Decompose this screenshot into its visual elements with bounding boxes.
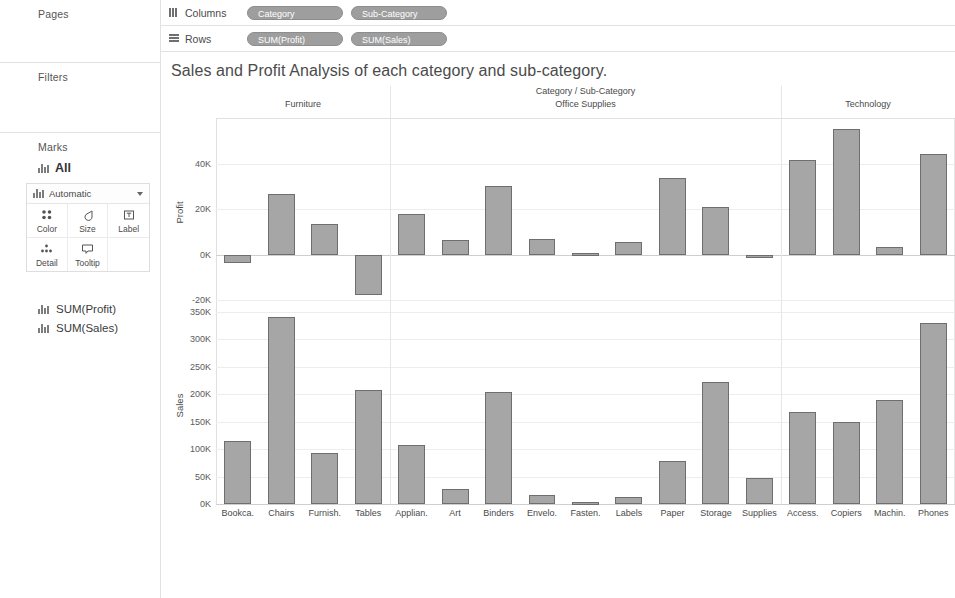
- x-axis-label: Paper: [651, 508, 694, 518]
- bar[interactable]: [224, 441, 251, 504]
- marks-size-button[interactable]: Size: [68, 204, 109, 238]
- mark-type-dropdown[interactable]: Automatic: [27, 184, 149, 204]
- worksheet: Sales and Profit Analysis of each catego…: [161, 52, 955, 598]
- measure-card-sales[interactable]: SUM(Sales): [8, 315, 160, 334]
- gridline: [216, 300, 955, 301]
- bar[interactable]: [615, 242, 642, 254]
- bar[interactable]: [529, 239, 556, 255]
- x-axis-label: Storage: [694, 508, 737, 518]
- bar[interactable]: [398, 214, 425, 255]
- bar[interactable]: [920, 323, 947, 504]
- category-label-technology: Technology: [808, 99, 928, 109]
- x-axis-label: Tables: [346, 508, 389, 518]
- gridline: [216, 367, 955, 368]
- bar[interactable]: [442, 240, 469, 255]
- bar[interactable]: [702, 207, 729, 255]
- sales-chart: Sales0K50K100K150K200K250K300K350KBookca…: [216, 309, 955, 504]
- bar[interactable]: [833, 422, 860, 504]
- bar[interactable]: [920, 154, 947, 255]
- pages-panel[interactable]: Pages: [0, 0, 160, 63]
- marks-all-label: All: [55, 161, 71, 175]
- bar[interactable]: [311, 224, 338, 255]
- marks-card: Automatic Color Size: [26, 183, 150, 272]
- columns-shelf[interactable]: Columns Category Sub-Category: [161, 0, 955, 26]
- columns-shelf-label: Columns: [169, 7, 247, 19]
- x-axis-label: Art: [433, 508, 476, 518]
- chevron-down-icon: [137, 192, 143, 196]
- measure-card-profit-label: SUM(Profit): [56, 303, 116, 315]
- y-axis-tick: -20K: [192, 295, 216, 305]
- marks-detail-button[interactable]: Detail: [27, 238, 68, 271]
- bar[interactable]: [529, 495, 556, 504]
- measure-card-profit[interactable]: SUM(Profit): [8, 296, 160, 315]
- bar[interactable]: [702, 382, 729, 504]
- bar[interactable]: [311, 453, 338, 504]
- marks-panel: Marks All Automatic Color: [0, 133, 160, 334]
- bar[interactable]: [485, 392, 512, 504]
- x-axis-label: Furnish.: [303, 508, 346, 518]
- category-separator: [781, 86, 782, 118]
- x-axis-label: Phones: [912, 508, 955, 518]
- bar[interactable]: [485, 186, 512, 254]
- x-axis-label: Supplies: [738, 508, 781, 518]
- measure-card-sales-label: SUM(Sales): [56, 322, 118, 334]
- bar[interactable]: [355, 390, 382, 504]
- column-headers: Category / Sub-Category FurnitureOffice …: [216, 86, 955, 119]
- marks-empty-cell: [108, 238, 149, 271]
- tableau-workspace: Pages Filters Marks All Automatic: [0, 0, 955, 598]
- rows-shelf[interactable]: Rows SUM(Profit) SUM(Sales): [161, 26, 955, 52]
- bar[interactable]: [268, 317, 295, 504]
- pill-sum-profit[interactable]: SUM(Profit): [247, 32, 343, 46]
- bar[interactable]: [615, 497, 642, 504]
- bar[interactable]: [746, 255, 773, 258]
- tooltip-bubble-icon: [81, 242, 94, 256]
- y-axis-tick: 100K: [190, 444, 216, 454]
- columns-text: Columns: [185, 7, 226, 19]
- bar[interactable]: [398, 445, 425, 504]
- pill-sum-sales[interactable]: SUM(Sales): [351, 32, 447, 46]
- bar[interactable]: [876, 400, 903, 504]
- y-axis-title: Profit: [174, 201, 185, 223]
- measure-icon: [38, 324, 49, 333]
- y-axis-tick: 20K: [195, 204, 216, 214]
- bar[interactable]: [659, 461, 686, 504]
- bar[interactable]: [355, 255, 382, 295]
- x-axis-label: Copiers: [825, 508, 868, 518]
- bar[interactable]: [442, 489, 469, 504]
- bar[interactable]: [572, 502, 599, 505]
- columns-icon: [169, 8, 179, 17]
- y-axis-tick: 0K: [200, 499, 216, 509]
- category-label-furniture: Furniture: [243, 99, 363, 109]
- detail-dots-icon: [40, 242, 53, 256]
- marks-label-button[interactable]: Label: [108, 204, 149, 238]
- marks-tooltip-button[interactable]: Tooltip: [68, 238, 109, 271]
- category-separator: [390, 86, 391, 118]
- bar[interactable]: [789, 412, 816, 504]
- category-separator: [390, 309, 391, 504]
- y-axis-tick: 50K: [195, 472, 216, 482]
- bar[interactable]: [659, 178, 686, 255]
- bar[interactable]: [789, 160, 816, 255]
- marks-color-label: Color: [37, 224, 57, 234]
- bar[interactable]: [572, 253, 599, 256]
- bar[interactable]: [224, 255, 251, 263]
- gridline: [216, 394, 955, 395]
- rows-icon: [169, 34, 179, 43]
- marks-color-button[interactable]: Color: [27, 204, 68, 238]
- pill-category[interactable]: Category: [247, 6, 343, 20]
- bar[interactable]: [876, 247, 903, 255]
- x-axis-label: Labels: [607, 508, 650, 518]
- bar-chart-icon: [38, 164, 49, 173]
- column-header-title: Category / Sub-Category: [216, 86, 955, 96]
- category-separator: [781, 309, 782, 504]
- filters-panel[interactable]: Filters: [0, 63, 160, 133]
- x-axis-label: Machin.: [868, 508, 911, 518]
- bar[interactable]: [746, 478, 773, 504]
- marks-label-label: Label: [118, 224, 139, 234]
- bar[interactable]: [833, 129, 860, 255]
- bar[interactable]: [268, 194, 295, 255]
- filters-label: Filters: [8, 71, 160, 83]
- x-axis-label: Binders: [477, 508, 520, 518]
- pill-sub-category[interactable]: Sub-Category: [351, 6, 447, 20]
- marks-all-row[interactable]: All: [8, 153, 160, 177]
